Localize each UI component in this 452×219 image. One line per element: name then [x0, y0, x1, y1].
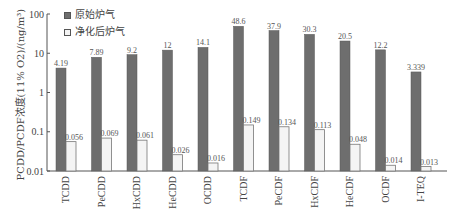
bar-raw	[411, 72, 421, 171]
bar-value-label: 0.056	[65, 133, 83, 142]
bar-value-label: 0.069	[101, 129, 119, 138]
bar-raw	[56, 68, 66, 171]
bar-raw	[340, 41, 350, 171]
bar-value-label: 0.113	[314, 121, 332, 130]
bar-clean	[350, 144, 360, 171]
bar-value-label: 9.2	[127, 46, 137, 55]
bar-raw	[127, 55, 137, 171]
bar-value-label: 30.3	[303, 25, 317, 34]
bar-clean	[244, 125, 254, 171]
y-tick-label: 10	[34, 48, 44, 59]
bar-clean	[208, 163, 218, 171]
x-tick-label: HeCDD	[167, 176, 178, 209]
bar-clean	[173, 155, 183, 171]
bar-value-label: 12	[164, 41, 172, 50]
bar-value-label: 0.026	[172, 146, 190, 155]
bar-clean	[102, 138, 112, 171]
bar-value-label: 48.6	[232, 17, 246, 26]
bar-value-label: 0.149	[243, 116, 261, 125]
bar-clean	[315, 130, 325, 171]
x-tick-label: PeCDD	[96, 176, 107, 207]
bar-value-label: 0.134	[278, 118, 296, 127]
bar-raw	[234, 26, 244, 171]
legend-label-raw: 原始炉气	[75, 8, 115, 22]
bar-clean	[66, 142, 76, 171]
y-tick-label: 0.01	[27, 166, 45, 177]
legend-swatch-raw	[64, 12, 71, 19]
legend-swatch-clean	[64, 29, 71, 36]
bar-value-label: 4.19	[54, 59, 68, 68]
bar-value-label: 0.014	[385, 156, 403, 165]
bar-value-label: 12.2	[374, 41, 388, 50]
legend-item-clean: 净化后炉气	[64, 25, 125, 39]
bar-value-label: 0.061	[136, 131, 154, 140]
bar-value-label: 14.1	[196, 38, 210, 47]
bar-raw	[92, 57, 102, 171]
bar-clean	[279, 127, 289, 171]
x-tick-label: TCDF	[238, 176, 249, 202]
y-tick-label: 100	[29, 9, 44, 20]
bar-clean	[137, 140, 147, 171]
bar-raw	[376, 50, 386, 171]
x-tick-label: HxCDF	[309, 176, 320, 208]
legend: 原始炉气 净化后炉气	[64, 8, 125, 42]
bar-value-label: 20.5	[338, 32, 352, 41]
x-tick-label: I-TEQ	[415, 175, 426, 202]
bar-clean	[386, 165, 396, 171]
bar-value-label: 0.016	[207, 154, 225, 163]
bar-value-label: 0.048	[349, 135, 367, 144]
bar-raw	[198, 47, 208, 171]
y-tick-label: 0.1	[32, 126, 45, 137]
x-tick-label: HxCDD	[131, 176, 142, 209]
x-tick-label: TCDD	[60, 176, 71, 203]
bar-value-label: 0.013	[420, 158, 438, 167]
x-tick-label: HeCDF	[344, 176, 355, 208]
x-tick-label: PeCDF	[273, 176, 284, 206]
bar-raw	[269, 31, 279, 171]
legend-label-clean: 净化后炉气	[75, 25, 125, 39]
legend-item-raw: 原始炉气	[64, 8, 125, 22]
x-tick-label: OCDF	[380, 176, 391, 203]
bar-clean	[421, 167, 431, 171]
x-tick-label: OCDD	[202, 176, 213, 204]
y-tick-label: 1	[39, 87, 44, 98]
bar-value-label: 3.339	[407, 63, 425, 72]
bar-value-label: 7.89	[90, 48, 104, 57]
y-axis-label: PCDD/PCDF浓度(11% O2)/(ng/m³)	[12, 11, 27, 181]
bar-value-label: 37.9	[267, 22, 281, 31]
bar-raw	[305, 34, 315, 171]
